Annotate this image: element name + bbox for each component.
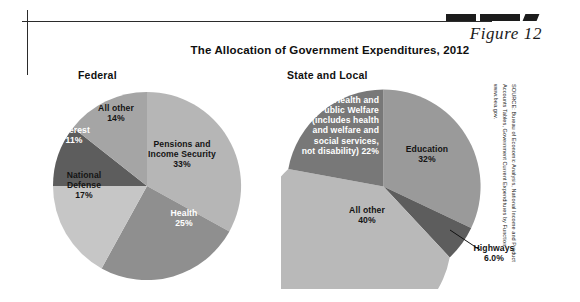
highways-leader-line [448,228,482,252]
figure-canvas: Figure 12 The Allocation of Government E… [0,0,580,302]
label-interest: Interest 11% [50,125,98,145]
label-all-other-state: All other 40% [337,205,397,225]
header-vertical-rule [27,10,28,75]
decorative-dash-1 [446,14,476,21]
decorative-dash-3 [523,14,540,21]
label-health-public-welfare: Health and Public Welfare (includes heal… [297,95,379,156]
decorative-dash-2 [480,14,520,21]
figure-number: Figure 12 [392,24,542,44]
label-national-defense: National Defense 17% [56,170,112,200]
state-local-panel-heading: State and Local [287,69,368,81]
label-pensions: Pensions and Income Security 33% [139,139,225,169]
header-rule [22,21,492,22]
label-education: Education 32% [396,144,458,164]
source-note: SOURCE: Bureau of Economic Analysis, Nat… [491,84,518,280]
label-all-other-federal: All other 14% [86,103,146,123]
figure-title: The Allocation of Government Expenditure… [120,44,540,56]
federal-panel-heading: Federal [78,69,117,81]
label-health: Health 25% [159,208,209,228]
